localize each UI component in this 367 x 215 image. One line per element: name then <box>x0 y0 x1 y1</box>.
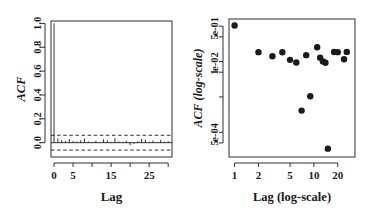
y-tick-label: 0.2 <box>33 112 44 125</box>
x-tick-label: 5 <box>287 169 293 181</box>
x-axis: 051525 <box>51 163 168 181</box>
y-tick-label: e-01 <box>210 17 221 36</box>
scatter-point <box>335 49 341 55</box>
scatter-point <box>298 107 304 113</box>
scatter-point <box>341 56 347 62</box>
panel-acf-linear: 0.00.20.40.60.81.0ACF051525Lag <box>0 0 183 215</box>
scatter-point <box>322 59 328 65</box>
scatter-points <box>231 22 350 152</box>
scatter-point <box>325 145 331 151</box>
x-tick-label: 20 <box>332 169 344 181</box>
scatter-point <box>279 49 285 55</box>
scatter-point <box>314 44 320 50</box>
scatter-point <box>344 49 350 55</box>
x-tick-label: 25 <box>144 169 156 181</box>
panel-acf-loglog: e-015e-021e-045ACF (log-scale)1251020Lag… <box>183 0 367 215</box>
x-tick-label: 10 <box>308 169 320 181</box>
scatter-point <box>287 57 293 63</box>
plot-frame <box>51 21 172 157</box>
scatter-point <box>307 93 313 99</box>
scatter-point <box>269 53 275 59</box>
y-axis-title: ACF <box>14 76 28 103</box>
x-axis-title: Lag (log-scale) <box>253 190 331 204</box>
y-tick-label: e-04 <box>210 122 221 141</box>
y-tick-label: 0.8 <box>33 41 44 54</box>
y-axis-title: ACF (log-scale) <box>191 49 205 129</box>
y-tick-label: 0.6 <box>33 65 44 78</box>
acf-linear-plot: 0.00.20.40.60.81.0ACF051525Lag <box>0 0 183 215</box>
x-axis-title: Lag <box>101 189 123 204</box>
x-tick-label: 15 <box>106 169 118 181</box>
y-tick-label: e-02 <box>210 52 221 71</box>
y-tick-label: 0.4 <box>33 88 44 102</box>
x-tick-label: 0 <box>51 169 57 181</box>
figure-canvas: 0.00.20.40.60.81.0ACF051525Lag e-015e-02… <box>0 0 367 215</box>
y-axis: e-015e-021e-045 <box>210 17 224 146</box>
scatter-point <box>303 52 309 58</box>
y-tick-label: 0.0 <box>33 136 44 149</box>
plot-frame <box>229 19 355 157</box>
y-tick-label: 1 <box>210 70 221 75</box>
y-tick-label: 5 <box>210 34 221 39</box>
scatter-point <box>255 49 261 55</box>
x-tick-label: 1 <box>232 169 238 181</box>
x-tick-label: 2 <box>256 169 262 181</box>
scatter-point <box>293 59 299 65</box>
x-axis: 1251020 <box>232 163 344 181</box>
acf-bars <box>54 23 168 145</box>
x-tick-label: 5 <box>70 169 76 181</box>
y-tick-label: 1.0 <box>33 17 44 30</box>
y-tick-label: 5 <box>210 140 221 145</box>
acf-loglog-plot: e-015e-021e-045ACF (log-scale)1251020Lag… <box>183 0 367 215</box>
y-axis: 0.00.20.40.60.81.0 <box>33 17 46 149</box>
scatter-point <box>231 22 237 28</box>
